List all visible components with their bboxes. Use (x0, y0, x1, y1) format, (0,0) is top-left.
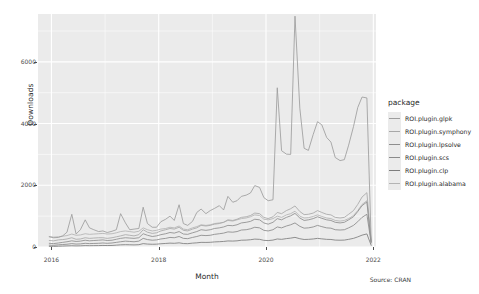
y-tick-mark (34, 62, 37, 63)
x-tick-mark (159, 247, 160, 250)
legend-item[interactable]: ROI.plugin.scs (388, 151, 479, 164)
plot-lines (38, 14, 376, 247)
y-tick-mark (34, 247, 37, 248)
legend-item-label: ROI.plugin.glpk (405, 112, 452, 125)
x-tick-label: 2022 (366, 256, 381, 263)
x-tick-label: 2016 (44, 256, 59, 263)
grid-lines (38, 14, 376, 247)
y-axis-ticks: 0200040006000 (6, 0, 36, 294)
y-tick-label: 2000 (10, 181, 36, 188)
legend-item-label: ROI.plugin.clp (405, 164, 448, 177)
series-line (49, 16, 371, 241)
plot-panel (38, 14, 376, 247)
legend-item-label: ROI.plugin.scs (405, 151, 449, 164)
x-tick-label: 2020 (258, 256, 273, 263)
legend-title: package (388, 98, 479, 107)
y-tick-label: 4000 (10, 120, 36, 127)
series-line (49, 202, 371, 244)
legend-color-swatch (388, 138, 401, 151)
y-tick-label: 6000 (10, 58, 36, 65)
y-tick-mark (34, 124, 37, 125)
x-tick-mark (266, 247, 267, 250)
legend-item-label: ROI.plugin.symphony (405, 125, 471, 138)
legend-color-swatch (388, 112, 401, 125)
y-tick-label: 0 (10, 243, 36, 250)
x-tick-mark (51, 247, 52, 250)
legend-item[interactable]: ROI.plugin.clp (388, 164, 479, 177)
legend-item[interactable]: ROI.plugin.glpk (388, 112, 479, 125)
chart-figure: Downloads 0200040006000 2016201820202022… (0, 0, 479, 294)
x-tick-label: 2018 (151, 256, 166, 263)
legend-item-label: ROI.plugin.lpsolve (405, 138, 461, 151)
legend-item[interactable]: ROI.plugin.alabama (388, 177, 479, 190)
legend-items: ROI.plugin.glpkROI.plugin.symphonyROI.pl… (388, 112, 479, 190)
chart-caption: Source: CRAN (370, 276, 411, 283)
x-axis-title: Month (38, 272, 376, 281)
legend-color-swatch (388, 151, 401, 164)
legend-color-swatch (388, 177, 401, 190)
legend-color-swatch (388, 125, 401, 138)
x-tick-mark (373, 247, 374, 250)
legend-item[interactable]: ROI.plugin.lpsolve (388, 138, 479, 151)
legend-color-swatch (388, 164, 401, 177)
y-tick-mark (34, 185, 37, 186)
legend-item[interactable]: ROI.plugin.symphony (388, 125, 479, 138)
legend-item-label: ROI.plugin.alabama (405, 177, 466, 190)
legend: package ROI.plugin.glpkROI.plugin.sympho… (388, 98, 479, 190)
